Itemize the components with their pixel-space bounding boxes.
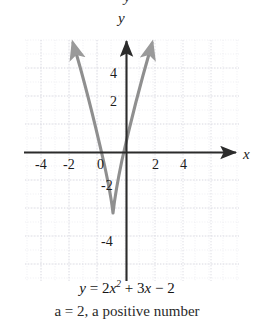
caption-clip-region: a = 2, a positive number xyxy=(0,303,254,319)
graph-svg xyxy=(0,0,254,290)
equation-var-x2: x xyxy=(145,280,152,296)
equation-coef-b: 3 xyxy=(137,280,145,296)
x-axis-label: x xyxy=(243,146,250,163)
equation-caption: y = 2x2 + 3x − 2 xyxy=(0,278,254,297)
figure-canvas: y xyxy=(0,0,254,319)
grid-major xyxy=(25,40,239,281)
y-tick-label-neg2: -2 xyxy=(101,178,113,194)
y-tick-label-pos4: 4 xyxy=(110,66,117,82)
equation-plus: + xyxy=(125,280,133,296)
curve-arrow-left xyxy=(73,42,76,54)
equation-equals: = xyxy=(90,280,98,296)
caption-text: a = 2, a positive number xyxy=(0,303,254,319)
equation-minus: − xyxy=(155,280,163,296)
grid-minor xyxy=(25,40,239,281)
curve-arrow-right xyxy=(149,42,152,55)
x-tick-label-neg4: -4 xyxy=(35,157,47,173)
y-axis-label: y xyxy=(118,10,125,27)
equation-constant: 2 xyxy=(167,280,175,296)
equation-exponent: 2 xyxy=(116,278,121,289)
y-tick-label-neg4: -4 xyxy=(101,234,113,250)
x-tick-label-pos4: 4 xyxy=(180,157,187,173)
y-tick-label-pos2: 2 xyxy=(110,94,117,110)
x-tick-label-pos2: 2 xyxy=(152,157,159,173)
x-tick-label-zero: 0 xyxy=(97,157,104,173)
equation-lhs: y xyxy=(79,280,86,296)
x-tick-label-neg2: -2 xyxy=(63,157,75,173)
